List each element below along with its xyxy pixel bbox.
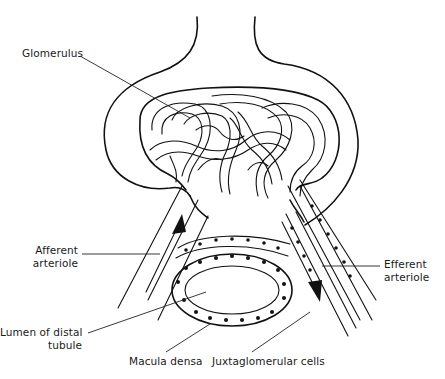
leader-lines [80,56,380,352]
distal-tubule [172,204,352,326]
label-efferent-arteriole: Efferent arteriole [384,258,429,284]
label-afferent-line2: arteriole [30,257,78,270]
efferent-arteriole [282,180,376,336]
label-afferent-line1: Afferent [30,244,78,257]
afferent-arteriole [118,186,208,320]
juxtaglomerular-cell-nuclei [184,204,352,286]
label-lumen-distal-tubule: Lumen of distal tubule [0,326,82,352]
label-macula-densa: Macula densa [129,355,203,368]
label-afferent-arteriole: Afferent arteriole [30,244,78,270]
afferent-up-arrow [172,214,186,234]
label-lumen-line1: Lumen of distal [0,326,82,339]
label-juxtaglomerular-cells: Juxtaglomerular cells [212,355,325,368]
label-lumen-line2: tubule [0,339,82,352]
label-efferent-line2: arteriole [384,271,429,284]
macula-densa-cells [176,254,286,322]
capsule-inner-base-left [190,196,208,218]
label-glomerulus: Glomerulus [22,47,83,60]
label-efferent-line1: Efferent [384,258,429,271]
